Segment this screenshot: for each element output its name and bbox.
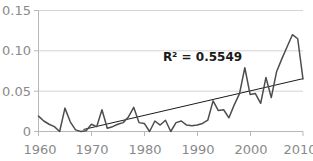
x-tick-label-1980: 1980 <box>128 142 161 157</box>
chart-container: 0.15 0.10 0.05 0 1960 1970 1980 1990 200… <box>0 0 313 161</box>
x-tick-label-2010: 2010 <box>283 142 313 157</box>
chart-plot: 0.15 0.10 0.05 0 1960 1970 1980 1990 200… <box>0 0 313 161</box>
y-tick-label-0: 0 <box>23 124 31 139</box>
x-tick-label-1990: 1990 <box>181 142 214 157</box>
y-tick-label-2: 0.10 <box>2 43 31 58</box>
y-tick-label-1: 0.05 <box>2 84 31 99</box>
x-tick-label-1970: 1970 <box>75 142 108 157</box>
x-tick-label-2000: 2000 <box>234 142 267 157</box>
r-squared-annotation: R² = 0.5549 <box>163 50 242 64</box>
y-tick-label-3: 0.15 <box>2 3 31 18</box>
x-tick-label-1960: 1960 <box>23 142 56 157</box>
